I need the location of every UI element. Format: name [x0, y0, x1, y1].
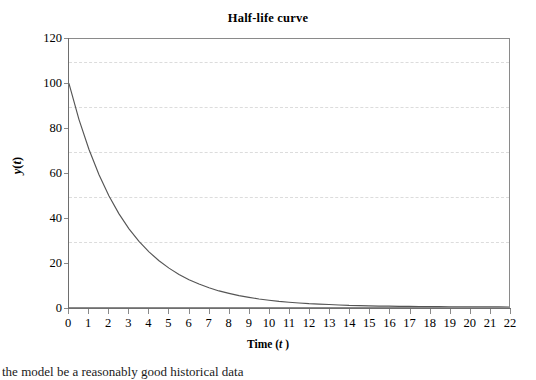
x-tick-mark-4 — [148, 309, 149, 314]
y-tick-mark-40 — [64, 218, 68, 219]
y-tick-label-120: 120 — [18, 32, 62, 44]
x-tick-mark-6 — [189, 309, 190, 314]
x-tick-mark-9 — [249, 309, 250, 314]
y-tick-mark-20 — [64, 263, 68, 264]
y-axis-title-inner: t — [10, 161, 24, 164]
y-tick-label-80: 80 — [18, 122, 62, 134]
y-tick-label-60: 60 — [18, 167, 62, 179]
half-life-curve-figure: Half-life curve 120100806040200 y(t) 012… — [0, 0, 536, 380]
y-tick-label-20: 20 — [18, 257, 62, 269]
y-axis-title-var: y — [10, 169, 24, 175]
x-tick-mark-0 — [68, 309, 69, 314]
y-axis-title-close: ) — [10, 157, 24, 161]
x-tick-mark-13 — [329, 309, 330, 314]
y-axis-title-open: ( — [10, 164, 24, 168]
x-tick-mark-5 — [168, 309, 169, 314]
x-axis-title-suffix: ) — [282, 338, 289, 350]
plot-area — [68, 38, 510, 308]
y-tick-label-0: 0 — [18, 302, 62, 314]
bottom-caption-clipped: the model be a reasonably good historica… — [2, 364, 422, 380]
x-tick-mark-20 — [470, 309, 471, 314]
x-tick-mark-7 — [209, 309, 210, 314]
x-tick-mark-15 — [369, 309, 370, 314]
chart-title: Half-life curve — [0, 11, 536, 26]
x-tick-mark-19 — [450, 309, 451, 314]
x-tick-mark-18 — [430, 309, 431, 314]
x-tick-mark-17 — [410, 309, 411, 314]
y-tick-mark-120 — [64, 38, 68, 39]
x-tick-mark-12 — [309, 309, 310, 314]
x-tick-mark-10 — [269, 309, 270, 314]
x-axis-title: Time (t ) — [0, 338, 536, 350]
x-tick-mark-11 — [289, 309, 290, 314]
y-tick-label-100: 100 — [18, 77, 62, 89]
y-tick-mark-100 — [64, 83, 68, 84]
y-axis-line — [68, 38, 69, 309]
y-tick-mark-60 — [64, 173, 68, 174]
x-tick-label-22: 22 — [498, 316, 522, 330]
x-tick-mark-22 — [510, 309, 511, 314]
y-tick-mark-80 — [64, 128, 68, 129]
y-axis-title: y(t) — [10, 136, 25, 196]
x-tick-mark-2 — [108, 309, 109, 314]
x-tick-mark-16 — [389, 309, 390, 314]
x-axis-title-prefix: Time ( — [247, 338, 279, 350]
x-tick-mark-3 — [128, 309, 129, 314]
x-tick-mark-14 — [349, 309, 350, 314]
x-tick-mark-8 — [229, 309, 230, 314]
x-tick-mark-21 — [490, 309, 491, 314]
y-tick-label-40: 40 — [18, 212, 62, 224]
x-tick-mark-1 — [88, 309, 89, 314]
decay-curve — [69, 39, 509, 307]
